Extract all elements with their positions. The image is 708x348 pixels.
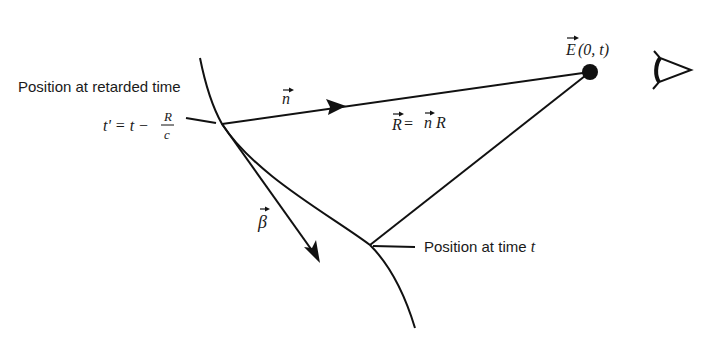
- beta-vector-line: [222, 124, 316, 256]
- retarded-time-diagram: Position at retarded time t' = t − R c n…: [0, 0, 708, 348]
- svg-text:n: n: [282, 90, 290, 107]
- present-leader-line: [373, 246, 415, 247]
- retarded-position-label: Position at retarded time: [18, 78, 181, 95]
- separation-equation: R = n R: [391, 111, 446, 134]
- svg-text:R: R: [435, 114, 446, 131]
- svg-text:R: R: [391, 116, 402, 133]
- eye-icon: [653, 51, 691, 89]
- field-label: E (0, t): [565, 36, 609, 60]
- svg-text:(0, t): (0, t): [578, 41, 609, 59]
- n-vector-label: n: [282, 88, 294, 108]
- svg-text:=: =: [403, 115, 414, 132]
- svg-text:t' = t −: t' = t −: [103, 117, 149, 134]
- svg-text:n: n: [424, 114, 432, 131]
- particle-trajectory: [200, 58, 415, 328]
- observer-point-dot: [582, 64, 598, 80]
- beta-vector-label: β: [257, 207, 270, 233]
- svg-text:β: β: [257, 212, 267, 232]
- svg-text:R: R: [163, 109, 172, 124]
- svg-text:E: E: [565, 41, 576, 58]
- svg-text:c: c: [164, 127, 170, 142]
- n-arrowhead-icon: [326, 99, 346, 115]
- retarded-time-equation: t' = t − R c: [103, 109, 174, 142]
- present-position-label: Position at time t: [424, 238, 536, 255]
- retarded-leader-line: [186, 118, 216, 123]
